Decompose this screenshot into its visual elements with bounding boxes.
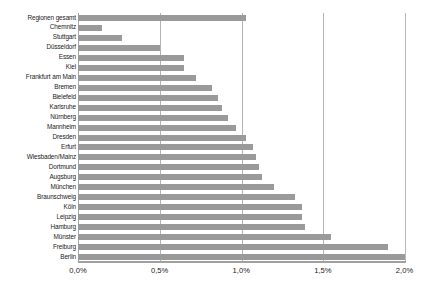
bar-row bbox=[78, 63, 405, 73]
category-label: Braunschweig bbox=[2, 193, 76, 200]
bar bbox=[78, 65, 184, 71]
category-label: Karlsruhe bbox=[2, 103, 76, 110]
bar bbox=[78, 25, 102, 31]
category-label: Stuttgart bbox=[2, 33, 76, 40]
value-tick-label: 1,5% bbox=[314, 266, 331, 276]
bar-row bbox=[78, 232, 405, 242]
bar bbox=[78, 184, 274, 190]
bar-row bbox=[78, 73, 405, 83]
bar-row bbox=[78, 103, 405, 113]
category-label: Nürnberg bbox=[2, 113, 76, 120]
category-axis: Regionen gesamtChemnitzStuttgartDüsseldo… bbox=[0, 13, 76, 262]
bar bbox=[78, 125, 236, 131]
plot-area bbox=[78, 13, 405, 262]
category-label: Wiesbaden/Mainz bbox=[2, 153, 76, 160]
bar bbox=[78, 174, 262, 180]
category-label: Leipzig bbox=[2, 213, 76, 220]
bar bbox=[78, 154, 256, 160]
bar bbox=[78, 214, 302, 220]
category-label: Regionen gesamt bbox=[2, 14, 76, 21]
category-label: Augsburg bbox=[2, 173, 76, 180]
value-axis-baseline bbox=[78, 261, 406, 263]
bar bbox=[78, 15, 246, 21]
bar bbox=[78, 254, 405, 260]
category-label: Bielefeld bbox=[2, 93, 76, 100]
bar-row bbox=[78, 222, 405, 232]
bar bbox=[78, 194, 295, 200]
bar-chart: Regionen gesamtChemnitzStuttgartDüsseldo… bbox=[0, 0, 427, 295]
bar bbox=[78, 135, 246, 141]
category-label: Kiel bbox=[2, 63, 76, 70]
bar bbox=[78, 224, 305, 230]
bar bbox=[78, 75, 196, 81]
bar bbox=[78, 45, 160, 51]
bar-row bbox=[78, 83, 405, 93]
bar-row bbox=[78, 93, 405, 103]
category-label: Münster bbox=[2, 233, 76, 240]
bar bbox=[78, 234, 331, 240]
category-label: Köln bbox=[2, 203, 76, 210]
bar-row bbox=[78, 182, 405, 192]
category-label: Berlin bbox=[2, 253, 76, 260]
bar-row bbox=[78, 162, 405, 172]
category-label: Hamburg bbox=[2, 223, 76, 230]
category-label: Essen bbox=[2, 53, 76, 60]
bar-row bbox=[78, 43, 405, 53]
bar bbox=[78, 115, 228, 121]
bar bbox=[78, 244, 388, 250]
category-label: Düsseldorf bbox=[2, 43, 76, 50]
bar-row bbox=[78, 212, 405, 222]
bar-row bbox=[78, 242, 405, 252]
value-tick-label: 0,5% bbox=[151, 266, 168, 276]
bar-row bbox=[78, 133, 405, 143]
bar-row bbox=[78, 13, 405, 23]
bar bbox=[78, 144, 253, 150]
category-label: Mannheim bbox=[2, 123, 76, 130]
bar bbox=[78, 55, 184, 61]
bar-row bbox=[78, 123, 405, 133]
bar-row bbox=[78, 113, 405, 123]
bar bbox=[78, 35, 122, 41]
bar-row bbox=[78, 172, 405, 182]
gridline-4 bbox=[405, 13, 406, 262]
bar-row bbox=[78, 202, 405, 212]
bar-row bbox=[78, 33, 405, 43]
bar bbox=[78, 95, 218, 101]
bar bbox=[78, 204, 302, 210]
category-label: Dortmund bbox=[2, 163, 76, 170]
category-label: Chemnitz bbox=[2, 23, 76, 30]
category-label: Bremen bbox=[2, 83, 76, 90]
bar-row bbox=[78, 142, 405, 152]
value-axis-labels: 0,0%0,5%1,0%1,5%2,0% bbox=[0, 266, 427, 282]
category-label: Dresden bbox=[2, 133, 76, 140]
value-tick-label: 0,0% bbox=[69, 266, 86, 276]
bar-row bbox=[78, 53, 405, 63]
category-label: München bbox=[2, 183, 76, 190]
bar bbox=[78, 85, 212, 91]
bar-row bbox=[78, 192, 405, 202]
bar bbox=[78, 164, 259, 170]
bar bbox=[78, 105, 222, 111]
value-tick-label: 2,0% bbox=[396, 266, 413, 276]
category-label: Frankfurt am Main bbox=[2, 73, 76, 80]
value-tick-label: 1,0% bbox=[233, 266, 250, 276]
bar-row bbox=[78, 152, 405, 162]
category-label: Freiburg bbox=[2, 243, 76, 250]
category-label: Erfurt bbox=[2, 143, 76, 150]
bar-row bbox=[78, 23, 405, 33]
